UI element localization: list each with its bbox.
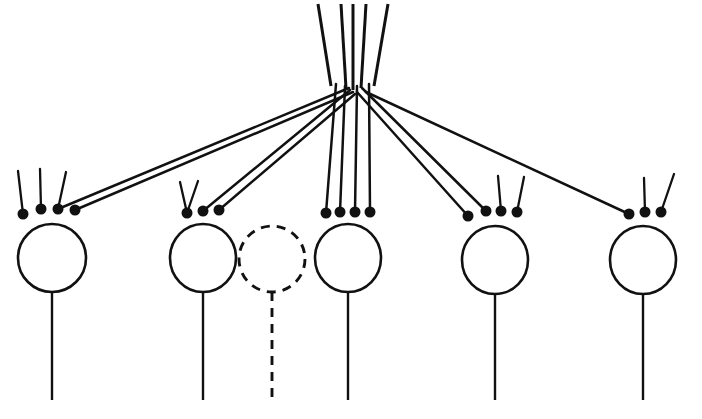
synaptic-bouton xyxy=(18,209,29,220)
local-input-fiber xyxy=(661,174,674,212)
synaptic-bouton xyxy=(365,207,376,218)
afferent-trunk-fiber xyxy=(341,4,346,88)
neuron-soma xyxy=(170,224,236,292)
synaptic-bouton xyxy=(463,211,474,222)
neuron-divergence-figure xyxy=(0,0,702,419)
synaptic-bouton xyxy=(640,207,651,218)
synaptic-bouton xyxy=(335,207,346,218)
local-input-fiber xyxy=(18,171,23,214)
afferent-collateral-branch xyxy=(58,88,349,209)
synaptic-bouton xyxy=(36,204,47,215)
local-input-fiber xyxy=(58,172,66,209)
neuron-soma xyxy=(18,224,86,292)
neuron-soma xyxy=(315,224,381,292)
neuron-soma-dashed xyxy=(239,226,305,292)
afferent-collateral-branch xyxy=(369,84,370,212)
synaptic-bouton xyxy=(198,206,209,217)
figure-canvas xyxy=(0,0,702,419)
afferent-branches xyxy=(58,84,629,216)
local-input-fiber xyxy=(40,169,41,209)
afferent-collateral-branch xyxy=(366,92,629,214)
synaptic-bouton xyxy=(496,206,507,217)
synaptic-bouton xyxy=(53,204,64,215)
neuron-somas xyxy=(18,224,676,294)
neuron-soma xyxy=(610,226,676,294)
afferent-trunk-fiber xyxy=(318,4,331,86)
synaptic-bouton xyxy=(350,207,361,218)
synaptic-bouton xyxy=(512,207,523,218)
synaptic-bouton xyxy=(70,205,81,216)
synaptic-bouton xyxy=(214,205,225,216)
synaptic-bouton xyxy=(624,209,635,220)
synaptic-bouton xyxy=(481,206,492,217)
afferent-trunk-fiber xyxy=(374,4,388,86)
synaptic-boutons xyxy=(18,204,667,222)
afferent-trunks xyxy=(318,4,388,90)
neuron-axons xyxy=(52,292,643,400)
synaptic-bouton xyxy=(656,207,667,218)
afferent-collateral-branch xyxy=(362,88,486,211)
afferent-collateral-branch xyxy=(75,92,353,210)
neuron-soma xyxy=(462,226,528,294)
afferent-collateral-branch xyxy=(357,92,468,216)
afferent-trunk-fiber xyxy=(361,4,366,88)
synaptic-bouton xyxy=(321,208,332,219)
synaptic-bouton xyxy=(182,208,193,219)
afferent-collateral-branch xyxy=(355,86,357,212)
